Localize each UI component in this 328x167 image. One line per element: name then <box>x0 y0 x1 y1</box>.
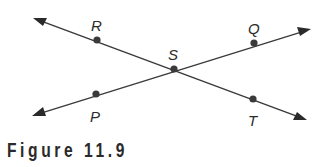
figure-11-9: R Q S P T Figure 11.9 <box>0 0 328 167</box>
point-T <box>249 95 256 102</box>
label-S: S <box>168 46 178 63</box>
point-S <box>170 65 177 72</box>
figure-caption: Figure 11.9 <box>7 138 128 162</box>
point-Q <box>250 39 257 46</box>
line-PQ <box>41 32 302 113</box>
point-P <box>92 90 99 97</box>
arrowhead-upper-right-icon <box>297 27 311 36</box>
label-T: T <box>248 112 259 129</box>
arrowhead-lower-right-icon <box>293 112 307 120</box>
arrowhead-upper-left-icon <box>33 18 47 26</box>
label-P: P <box>90 108 100 125</box>
label-Q: Q <box>248 20 260 37</box>
arrowhead-lower-left-icon <box>32 107 46 116</box>
label-R: R <box>91 17 102 34</box>
point-R <box>93 36 100 43</box>
